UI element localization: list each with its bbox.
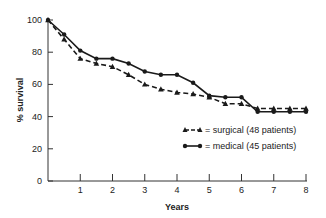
circle-marker-icon: [288, 110, 292, 114]
x-tick-label: 5: [207, 185, 212, 195]
x-tick-label: 3: [142, 185, 147, 195]
circle-marker-icon: [110, 56, 114, 60]
series-triangle: [45, 17, 309, 111]
x-tick-label: 6: [239, 185, 244, 195]
y-tick-label: 100: [27, 15, 42, 25]
x-tick-label: 1: [78, 185, 83, 195]
circle-marker-icon: [304, 110, 308, 114]
x-tick-label: 8: [303, 185, 308, 195]
survival-chart: 020406080100 12345678 % survival Years =…: [0, 0, 326, 218]
circle-marker-icon: [94, 56, 98, 60]
circle-marker-icon: [46, 18, 50, 22]
legend-item-surgical: = surgical (48 patients): [183, 125, 297, 135]
legend-item-medical: = medical (45 patients): [183, 141, 296, 151]
circle-marker-icon: [126, 61, 130, 65]
circle-marker-icon: [78, 48, 82, 52]
circle-marker-icon: [223, 95, 227, 99]
circle-marker-icon: [183, 144, 187, 148]
y-tick-label: 20: [32, 144, 42, 154]
data-series: [45, 17, 309, 114]
y-tick-label: 0: [37, 176, 42, 186]
legend: = surgical (48 patients) = medical (45 p…: [183, 125, 297, 151]
legend-label-surgical: = surgical (48 patients): [205, 125, 296, 135]
y-tick-label: 40: [32, 112, 42, 122]
x-tick-label: 2: [110, 185, 115, 195]
series-circle: [46, 18, 308, 114]
y-axis-ticks: 020406080100: [27, 15, 53, 186]
series-line: [48, 20, 306, 112]
triangle-marker-icon: [142, 81, 148, 86]
legend-label-medical: = medical (45 patients): [205, 141, 296, 151]
circle-marker-icon: [272, 110, 276, 114]
x-axis-title: Years: [165, 202, 189, 212]
circle-marker-icon: [143, 69, 147, 73]
circle-marker-icon: [62, 32, 66, 36]
chart-axes: [48, 20, 307, 181]
y-axis-title: % survival: [15, 78, 25, 123]
series-line: [48, 20, 306, 109]
circle-marker-icon: [239, 95, 243, 99]
x-tick-label: 7: [271, 185, 276, 195]
circle-marker-icon: [207, 93, 211, 97]
y-tick-label: 80: [32, 47, 42, 57]
triangle-marker-icon: [77, 56, 83, 61]
circle-marker-icon: [255, 110, 259, 114]
circle-marker-icon: [198, 144, 202, 148]
circle-marker-icon: [159, 73, 163, 77]
x-axis-ticks: 12345678: [78, 174, 309, 195]
y-tick-label: 60: [32, 79, 42, 89]
circle-marker-icon: [175, 73, 179, 77]
circle-marker-icon: [191, 81, 195, 85]
x-tick-label: 4: [174, 185, 179, 195]
